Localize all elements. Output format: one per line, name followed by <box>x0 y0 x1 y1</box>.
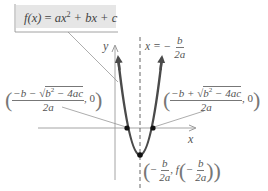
vertex-inner-neg: − <box>186 163 192 175</box>
left-root-point <box>124 125 129 130</box>
right-root-numerator: −b + √b2 − 4ac <box>170 87 242 101</box>
right-root-radicand: b2 − 4ac <box>203 86 241 99</box>
symmetry-denominator: 2a <box>174 48 185 60</box>
formula-lhs: f(x) <box>24 11 41 25</box>
symmetry-numerator: b <box>176 35 184 48</box>
right-root-open-paren: ( <box>163 87 170 112</box>
right-root-fraction: −b + √b2 − 4ac 2a <box>170 87 242 113</box>
left-root-radicand-rest: − 4ac <box>54 87 83 99</box>
left-root-y: , 0 <box>84 92 95 104</box>
formula-rest: + bx + c <box>70 11 117 25</box>
left-root-open-paren: ( <box>5 87 12 112</box>
left-root-numerator: −b − √b2 − 4ac <box>12 87 84 101</box>
vertex-x-fraction: b 2a <box>159 158 170 183</box>
right-root-radicand-rest: − 4ac <box>212 87 241 99</box>
axis-of-symmetry-label: x = − b 2a <box>145 35 185 60</box>
right-root-num-prefix: −b + <box>171 87 197 99</box>
function-formula: f(x) = ax2 + bx + c <box>24 10 117 26</box>
vertex-close-paren: ) <box>213 158 220 183</box>
right-root-close-paren: ) <box>253 87 260 112</box>
symmetry-lhs: x = − <box>145 40 171 52</box>
right-root-denominator: 2a <box>201 101 212 113</box>
vertex-point <box>137 152 143 158</box>
vertex-x-numerator: b <box>161 158 169 171</box>
left-root-close-paren: ) <box>95 87 102 112</box>
left-root-radicand: b2 − 4ac <box>45 86 83 99</box>
x-axis-label: x <box>188 133 193 145</box>
right-root-leader-line <box>154 111 204 127</box>
y-axis-label: y <box>103 40 108 52</box>
left-root-fraction: −b − √b2 − 4ac 2a <box>12 87 84 113</box>
right-root-point <box>150 125 155 130</box>
left-root-num-prefix: −b − <box>13 87 39 99</box>
right-root-y: , 0 <box>242 92 253 104</box>
left-root-denominator: 2a <box>43 101 54 113</box>
left-root-label: ( −b − √b2 − 4ac 2a , 0) <box>5 87 102 113</box>
formula-leader-line <box>68 32 118 82</box>
right-root-label: ( −b + √b2 − 4ac 2a , 0) <box>163 87 260 113</box>
left-arm-arrow-icon <box>118 58 119 70</box>
formula-ax: ax <box>55 11 67 25</box>
vertex-inner-numerator: b <box>197 158 205 171</box>
vertex-x-denominator: 2a <box>159 171 170 183</box>
vertex-label: (− b 2a , f(− b 2a )) <box>143 158 221 183</box>
vertex-inner-denominator: 2a <box>195 171 206 183</box>
vertex-x-neg: − <box>150 163 156 175</box>
formula-equals: = <box>41 11 54 25</box>
vertex-inner-fraction: b 2a <box>195 158 206 183</box>
symmetry-fraction: b 2a <box>174 35 185 60</box>
